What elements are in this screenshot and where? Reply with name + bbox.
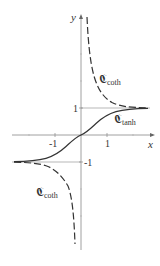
coth-label-lower-main: 𝕮 (36, 185, 44, 199)
x-axis-arrow (150, 133, 155, 137)
tanh-label-main: 𝕮 (114, 112, 122, 126)
coth-label-upper-sub: coth (107, 78, 121, 87)
tanh-label-sub: tanh (122, 118, 136, 127)
coth-label-lower-sub: coth (44, 191, 58, 200)
x-tick-label-pos1: 1 (105, 138, 110, 149)
y-axis-label: y (70, 11, 76, 23)
y-tick-label-pos1: 1 (73, 103, 78, 114)
tanh-label: 𝕮tanh (114, 112, 136, 127)
coth-label-upper-main: 𝕮 (99, 72, 107, 86)
y-tick-label-neg1: -1 (84, 157, 92, 168)
hyperbolic-functions-chart: x y -1 1 1 -1 𝕮coth 𝕮tanh 𝕮coth (0, 0, 160, 266)
coth-curve-negative (14, 162, 75, 244)
y-axis-arrow (79, 14, 83, 19)
x-axis-label: x (147, 138, 153, 150)
coth-curve-positive (87, 17, 148, 108)
coth-label-upper: 𝕮coth (99, 72, 121, 87)
x-tick-label-neg1: -1 (49, 138, 57, 149)
coth-label-lower: 𝕮coth (36, 185, 58, 200)
